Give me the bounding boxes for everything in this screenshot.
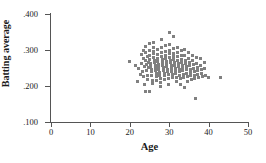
data-point: [168, 49, 171, 52]
data-point: [134, 64, 137, 67]
data-point: [176, 46, 179, 49]
x-axis-label: Age: [51, 141, 248, 152]
data-point: [193, 77, 196, 80]
data-point: [183, 54, 186, 57]
data-point: [150, 74, 153, 77]
x-tick-label: 0: [39, 128, 63, 137]
data-point: [156, 53, 159, 56]
data-point: [139, 73, 142, 76]
data-point: [146, 78, 149, 81]
data-point: [186, 75, 189, 78]
data-point: [189, 74, 192, 77]
y-tick-label: .400: [8, 10, 38, 19]
data-point: [179, 77, 182, 80]
data-point: [144, 90, 147, 93]
data-point: [167, 73, 170, 76]
data-point: [184, 59, 187, 62]
x-tick-label: 50: [236, 128, 260, 137]
data-point: [191, 54, 194, 57]
data-point: [182, 76, 185, 79]
data-point: [195, 62, 198, 65]
y-tick-label: .200: [8, 82, 38, 91]
data-point: [180, 54, 183, 57]
data-point: [144, 45, 147, 48]
data-point: [171, 76, 174, 79]
data-point: [172, 47, 175, 50]
data-point: [203, 61, 206, 64]
data-point: [176, 55, 179, 58]
data-point: [194, 97, 197, 100]
data-point: [163, 78, 166, 81]
data-point: [148, 42, 151, 45]
data-point: [160, 38, 163, 41]
y-tick-mark: [45, 14, 50, 15]
data-point: [151, 82, 154, 85]
data-point: [152, 41, 155, 44]
data-point: [141, 70, 144, 73]
data-point: [180, 49, 183, 52]
data-point: [160, 51, 163, 54]
data-point: [189, 71, 192, 74]
data-point: [172, 35, 175, 38]
data-point: [191, 59, 194, 62]
data-point: [187, 51, 190, 54]
data-point: [168, 43, 171, 46]
data-point: [159, 77, 162, 80]
data-point: [185, 72, 188, 75]
data-point: [188, 61, 191, 64]
data-point: [152, 46, 155, 49]
data-point: [146, 74, 149, 77]
data-point: [175, 76, 178, 79]
data-point: [148, 54, 151, 57]
data-point: [175, 80, 178, 83]
y-tick-label: .300: [8, 46, 38, 55]
data-point: [152, 52, 155, 55]
data-point: [156, 48, 159, 51]
data-point: [200, 72, 203, 75]
data-point: [219, 76, 222, 79]
data-point: [176, 51, 179, 54]
data-point: [163, 74, 166, 77]
data-point: [182, 73, 185, 76]
data-point: [148, 58, 151, 61]
data-point: [195, 56, 198, 59]
y-tick-mark: [45, 86, 50, 87]
data-point: [148, 90, 151, 93]
data-point: [159, 81, 162, 84]
data-point: [140, 53, 143, 56]
data-point: [136, 80, 139, 83]
x-tick-label: 40: [197, 128, 221, 137]
data-point: [174, 72, 177, 75]
data-point: [196, 69, 199, 72]
data-point: [186, 80, 189, 83]
data-point: [143, 83, 146, 86]
data-point: [200, 68, 203, 71]
data-point: [137, 67, 140, 70]
data-point: [183, 86, 186, 89]
data-point: [193, 70, 196, 73]
data-point: [179, 83, 182, 86]
data-point: [128, 60, 131, 63]
data-point: [187, 57, 190, 60]
data-point: [144, 51, 147, 54]
data-point: [190, 78, 193, 81]
data-point: [192, 63, 195, 66]
data-point: [199, 57, 202, 60]
y-axis-label: Batting average: [0, 0, 18, 135]
data-point: [167, 77, 170, 80]
y-tick-label: .100: [8, 118, 38, 127]
x-axis-line: [51, 122, 249, 123]
data-point: [167, 83, 170, 86]
data-point: [159, 85, 162, 88]
data-point: [164, 50, 167, 53]
data-point: [142, 75, 145, 78]
data-point: [150, 70, 153, 73]
x-tick-label: 20: [118, 128, 142, 137]
x-tick-label: 10: [78, 128, 102, 137]
y-tick-mark: [45, 122, 50, 123]
data-point: [183, 48, 186, 51]
data-point: [197, 76, 200, 79]
data-point: [168, 31, 171, 34]
data-point: [164, 44, 167, 47]
data-point: [207, 76, 210, 79]
